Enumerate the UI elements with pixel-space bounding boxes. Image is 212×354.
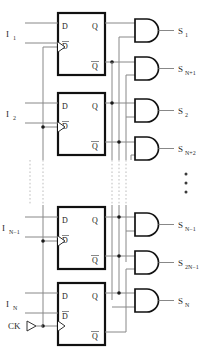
pin-d-label: D	[62, 292, 68, 301]
junction-dot	[117, 291, 121, 295]
input-label: I	[2, 223, 5, 233]
junction-dot	[41, 239, 45, 243]
output-sublabel: N	[185, 302, 190, 308]
flipflop-2[interactable]: D D Q Q I 2	[6, 93, 105, 155]
input-label: I	[6, 299, 9, 309]
and-gate-shape	[135, 57, 159, 80]
pin-qbar-label: Q	[92, 256, 98, 265]
pin-d-label: D	[62, 22, 68, 31]
output-label: S	[178, 144, 183, 154]
flipflop-n[interactable]: D D Q Q I N	[6, 283, 105, 345]
output-label: S	[178, 220, 183, 230]
and-gate-3[interactable]: S 2	[135, 99, 188, 122]
output-label: S	[178, 258, 183, 268]
output-label: S	[178, 26, 183, 36]
pin-d-label: D	[62, 216, 68, 225]
clock-label: CK	[8, 321, 21, 331]
junction-dot	[110, 101, 114, 105]
and-gate-shape	[135, 213, 159, 236]
and-gate-5[interactable]: S N−1	[135, 213, 196, 236]
and-gate-6[interactable]: S 2N−1	[135, 251, 199, 274]
input-label: I	[6, 109, 9, 119]
output-sublabel: 1	[185, 32, 188, 38]
junction-dot	[41, 125, 45, 129]
and-gate-shape	[135, 251, 159, 274]
interconnect-wires	[105, 23, 135, 332]
clock-bus	[41, 47, 58, 328]
and-gate-shape	[135, 289, 159, 312]
vertical-ellipsis-right	[185, 173, 188, 194]
and-gate-shape	[135, 137, 159, 160]
and-gate-shape	[135, 99, 159, 122]
pin-q-label: Q	[92, 292, 98, 301]
pin-q-label: Q	[92, 22, 98, 31]
and-gate-2[interactable]: S N+1	[135, 57, 196, 80]
flipflop-1[interactable]: D D Q Q I 1	[6, 13, 105, 75]
and-gate-4[interactable]: S N+2	[135, 137, 196, 160]
output-sublabel: N+1	[185, 70, 196, 76]
junction-dot	[117, 215, 121, 219]
input-sublabel: 1	[13, 35, 16, 41]
dashed-continuation-wires	[30, 160, 126, 205]
pin-qbar-label: Q	[92, 332, 98, 341]
pin-q-label: Q	[92, 102, 98, 111]
pin-dbar-label: D	[62, 312, 68, 321]
pin-d-label: D	[62, 102, 68, 111]
clock-input-port[interactable]: CK	[8, 321, 43, 331]
output-label: S	[178, 296, 183, 306]
output-sublabel: N+2	[185, 150, 196, 156]
input-sublabel: N	[13, 305, 18, 311]
input-sublabel: N−1	[9, 229, 20, 235]
junction-dot	[117, 254, 121, 258]
junction-dot	[117, 140, 121, 144]
flipflop-n-minus-1[interactable]: D D Q Q I N−1	[2, 207, 105, 269]
input-label: I	[6, 29, 9, 39]
output-label: S	[178, 106, 183, 116]
output-sublabel: 2	[185, 112, 188, 118]
output-sublabel: N−1	[185, 226, 196, 232]
pin-qbar-label: Q	[92, 62, 98, 71]
circuit-diagram: CK D D Q Q I 1 D D Q Q I 2 D D	[0, 0, 212, 354]
and-gate-1[interactable]: S 1	[135, 19, 188, 42]
and-gate-shape	[135, 19, 159, 42]
output-label: S	[178, 64, 183, 74]
pin-q-label: Q	[92, 216, 98, 225]
and-gate-7[interactable]: S N	[135, 289, 190, 312]
input-sublabel: 2	[13, 115, 16, 121]
pin-qbar-label: Q	[92, 142, 98, 151]
input-port-triangle-icon	[27, 321, 36, 331]
output-sublabel: 2N−1	[185, 264, 199, 270]
